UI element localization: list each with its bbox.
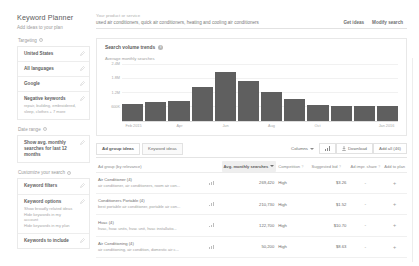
scrollbar-track[interactable] [412,58,413,262]
bar-chart-icon[interactable] [209,202,219,206]
sidebar-item-location[interactable]: United States [18,47,89,62]
sidebar-item-keywords-to-include[interactable]: Keywords to include [18,234,89,249]
edit-pencil-icon[interactable] [80,66,85,71]
columns-button[interactable]: Columns [286,144,319,153]
help-icon[interactable]: ? [339,165,341,169]
col-ad-impr-share[interactable]: Ad impr. share? [348,161,382,173]
bar-chart-icon[interactable] [209,181,219,185]
columns-label: Columns [291,146,308,151]
spacer [17,163,90,170]
cell-ad-impr-share: - [348,193,382,214]
cell-ad-group[interactable]: Conditioners Portable (4)best portable a… [96,193,207,214]
bar-chart-toggle-button[interactable] [319,143,336,154]
cell-ad-group[interactable]: Air Conditioner (4)air conditioner, air … [96,172,207,193]
sidebar-item-label: Show avg. monthly searches for last 12 m… [24,140,76,159]
chart-bar[interactable] [215,72,236,121]
sidebar-item-negative-keywords[interactable]: Negative keywords repair, building, embr… [18,92,89,120]
cell-ad-group[interactable]: Air Conditioning (4)air conditioning, ai… [96,236,207,257]
edit-pencil-icon[interactable] [80,199,85,204]
add-all-button[interactable]: Add all (46) [373,143,407,154]
edit-pencil-icon[interactable] [80,183,85,188]
add-to-plan-button[interactable]: + [382,172,407,193]
results-toolbar: Ad group ideas Keyword ideas Columns [96,143,407,158]
main-content: Search volume trends i Average monthly s… [96,38,419,253]
add-to-plan-button[interactable]: + [382,193,407,214]
chart-bar[interactable] [354,106,375,120]
modify-search-button[interactable]: Modify search [368,20,407,25]
cell-avg-monthly-searches: 269,420 [222,172,277,193]
bar-chart-icon[interactable] [209,223,219,227]
chart-bar[interactable] [284,99,305,120]
cell-graph-icon[interactable] [207,193,221,214]
chart-bar[interactable] [307,105,328,120]
help-icon[interactable]: ? [67,171,71,175]
help-icon[interactable]: ? [43,127,47,131]
edit-pencil-icon[interactable] [80,238,85,243]
cell-competition: High [276,215,309,236]
search-input[interactable]: used air conditioners, quick air conditi… [96,20,339,25]
sidebar-item-network[interactable]: Google [18,77,89,92]
col-add-to-plan: Add to plan [382,161,407,173]
cell-avg-monthly-searches: 50,200 [222,236,277,257]
table-row[interactable]: Air Conditioning (4)air conditioning, ai… [96,236,407,257]
cell-graph-icon[interactable] [207,172,221,193]
col-suggested-bid[interactable]: Suggested bid? [309,161,348,173]
page-subtitle: Add ideas to your plan [17,25,96,30]
table-row[interactable]: Air Conditioner (4)air conditioner, air … [96,172,407,193]
cell-graph-icon[interactable] [207,236,221,257]
tab-keyword-ideas[interactable]: Keyword ideas [142,143,183,155]
col-ad-group[interactable]: Ad group (by relevance) [96,161,207,173]
edit-pencil-icon[interactable] [80,96,85,101]
chart-bar[interactable] [377,106,398,121]
sidebar-item-keyword-filters[interactable]: Keyword filters [18,179,89,194]
search-row: used air conditioners, quick air conditi… [96,20,407,29]
sidebar-item-languages[interactable]: All languages [18,62,89,77]
cell-graph-icon[interactable] [207,215,221,236]
table-row[interactable]: Hvac (4)hvac, hvac units, hvac unit, hva… [96,215,407,236]
help-icon[interactable]: ? [302,165,304,169]
col-add-to-plan-label: Add to plan [384,164,405,169]
chart-bar[interactable] [145,102,166,120]
sidebar: Targeting ? United States All languages [0,38,96,253]
cell-ad-group[interactable]: Hvac (4)hvac, hvac units, hvac unit, hva… [96,215,207,236]
table-row[interactable]: Conditioners Portable (4)best portable a… [96,193,407,214]
col-competition[interactable]: Competition? [276,161,309,173]
targeting-label: Targeting [18,38,37,43]
sidebar-item-date-range[interactable]: Show avg. monthly searches for last 12 m… [18,136,89,164]
chart-bar[interactable] [261,92,282,120]
cell-avg-monthly-searches: 122,700 [222,215,277,236]
sidebar-item-keyword-options[interactable]: Keyword options Show broadly related ide… [18,195,89,234]
get-ideas-button[interactable]: Get ideas [339,20,368,25]
x-axis-tick-label: Apr [177,124,183,128]
help-icon[interactable]: ? [378,165,380,169]
date-range-section-title: Date range ? [18,127,90,132]
chart-y-axis-title: Average monthly searches [105,56,398,61]
edit-pencil-icon[interactable] [80,140,85,145]
edit-pencil-icon[interactable] [80,51,85,56]
add-to-plan-button[interactable]: + [382,215,407,236]
cell-ad-impr-share: - [348,215,382,236]
chart-bar[interactable] [238,81,259,120]
page-body: Targeting ? United States All languages [0,38,419,253]
tab-ad-group-ideas[interactable]: Ad group ideas [96,143,140,155]
chart-bar[interactable] [122,104,143,120]
bar-chart-icon[interactable] [209,245,219,249]
col-ad-impr-share-label: Ad impr. share [350,164,376,169]
help-icon[interactable]: ? [39,38,43,42]
col-avg-monthly-searches[interactable]: Avg. monthly searches [222,161,277,173]
grid-line [122,78,398,79]
chart-bar[interactable] [168,101,189,120]
chart-bar[interactable] [331,106,352,120]
edit-pencil-icon[interactable] [80,81,85,86]
x-axis-tick-label: Jun [222,124,228,128]
search-field-label: Your product or service [96,13,407,18]
chart-bar[interactable] [192,87,213,120]
add-to-plan-button[interactable]: + [382,236,407,257]
col-graph-toggle [207,161,221,173]
y-axis-tick-label: 1.2M [112,91,120,95]
sidebar-item-sub: Show broadly related ideas Hide keywords… [24,206,76,229]
bar-chart-icon [325,146,330,151]
info-icon[interactable]: i [158,45,163,50]
customize-card: Keyword filters Keyword options Show bro… [17,178,90,249]
download-button[interactable]: Download [336,143,373,154]
